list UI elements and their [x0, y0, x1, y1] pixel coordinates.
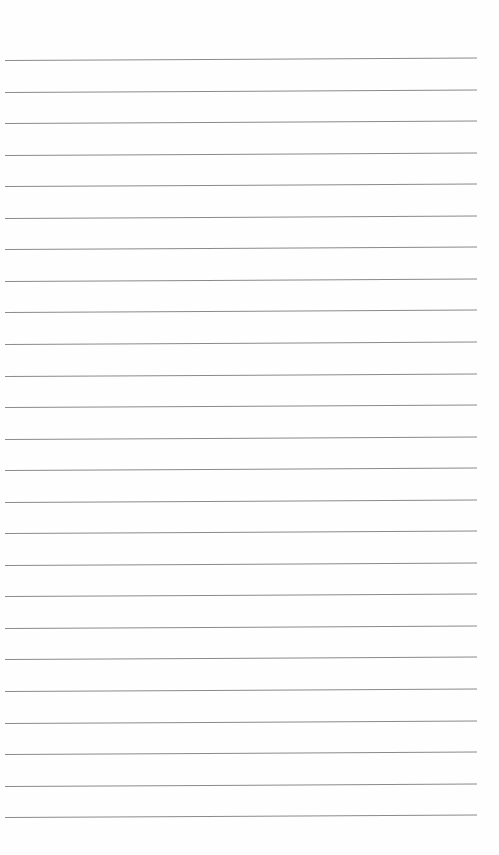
ruled-line: [5, 310, 477, 313]
lined-paper-page: [0, 0, 499, 855]
ruled-line: [5, 153, 477, 156]
ruled-line: [5, 689, 477, 692]
ruled-line: [5, 626, 477, 629]
ruled-line: [5, 121, 477, 124]
ruled-line: [5, 721, 477, 724]
ruled-line: [5, 531, 477, 534]
ruled-line: [5, 657, 477, 660]
ruled-line: [5, 405, 477, 408]
ruled-line: [5, 815, 477, 818]
ruled-line: [5, 468, 477, 471]
ruled-line: [5, 247, 477, 250]
ruled-line: [5, 784, 477, 787]
ruled-line: [5, 58, 477, 61]
ruled-line: [5, 279, 477, 282]
ruled-line: [5, 90, 477, 93]
ruled-line: [5, 594, 477, 597]
ruled-line: [5, 216, 477, 219]
ruled-line: [5, 563, 477, 566]
ruled-line: [5, 374, 477, 377]
ruled-line: [5, 342, 477, 345]
ruled-line: [5, 500, 477, 503]
ruled-line: [5, 184, 477, 187]
ruled-line: [5, 752, 477, 755]
ruled-line: [5, 437, 477, 440]
